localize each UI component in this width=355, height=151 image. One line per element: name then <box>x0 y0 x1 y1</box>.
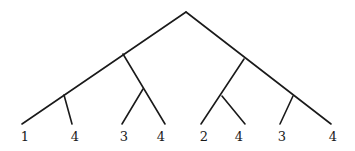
tree-edges <box>22 12 331 124</box>
leaf-label: 4 <box>329 129 337 144</box>
tree-branch <box>123 54 165 124</box>
tree-diagram: 14342434 <box>0 0 355 151</box>
leaf-label: 1 <box>21 129 29 144</box>
tree-branch <box>122 89 143 124</box>
tree-branch <box>22 12 186 124</box>
leaf-label: 3 <box>120 129 128 144</box>
tree-branch <box>186 12 331 124</box>
leaf-label: 3 <box>278 129 286 144</box>
tree-branch <box>222 96 245 124</box>
leaf-label: 4 <box>235 129 243 144</box>
leaf-label: 4 <box>157 129 165 144</box>
tree-branch <box>280 96 293 124</box>
leaf-label: 4 <box>71 129 79 144</box>
tree-branch <box>64 95 72 124</box>
leaf-labels: 14342434 <box>21 129 337 144</box>
leaf-label: 2 <box>200 129 208 144</box>
